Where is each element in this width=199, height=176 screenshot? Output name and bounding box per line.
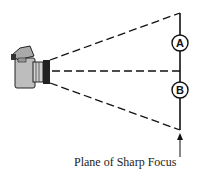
- camera-icon: [11, 46, 50, 88]
- focus-plane-caption: Plane of Sharp Focus: [74, 155, 176, 170]
- diagram-canvas: A B Plane of Shar: [0, 0, 199, 176]
- arrow-up-icon: [177, 133, 183, 157]
- point-b-label: B: [176, 84, 184, 96]
- upper-ray-line: [50, 13, 180, 60]
- diagram-svg: A B: [0, 0, 199, 176]
- point-a-label: A: [176, 37, 184, 49]
- lower-ray-line: [50, 83, 180, 130]
- point-a-marker: A: [172, 35, 188, 51]
- point-b-marker: B: [172, 82, 188, 98]
